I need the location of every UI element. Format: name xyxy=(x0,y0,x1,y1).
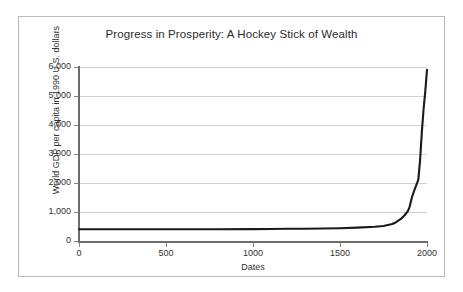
y-axis-tick-label: 4,000 xyxy=(19,119,71,129)
y-axis-tick-mark xyxy=(74,125,78,126)
x-axis-tick-mark xyxy=(79,243,80,247)
y-axis-tick-mark xyxy=(74,154,78,155)
chart-figure-frame: Progress in Prosperity: A Hockey Stick o… xyxy=(18,16,445,277)
y-axis-tick-mark xyxy=(74,212,78,213)
y-axis-tick-label: 1,000 xyxy=(19,206,71,216)
x-axis-tick-label: 1500 xyxy=(320,248,360,258)
y-axis-tick-mark xyxy=(74,96,78,97)
y-axis-tick-mark xyxy=(74,241,78,242)
series-line-chart xyxy=(19,17,446,278)
x-axis-tick-label: 0 xyxy=(59,248,99,258)
y-axis-tick-label: 5,000 xyxy=(19,90,71,100)
y-axis-tick-mark xyxy=(74,183,78,184)
x-axis-tick-mark xyxy=(340,243,341,247)
y-axis-tick-mark xyxy=(74,67,78,68)
x-axis-tick-mark xyxy=(166,243,167,247)
y-axis-tick-label: 6,000 xyxy=(19,61,71,71)
series-path xyxy=(79,70,427,229)
x-axis-tick-label: 1000 xyxy=(233,248,273,258)
y-axis-tick-label: 0 xyxy=(19,235,71,245)
x-axis-tick-mark xyxy=(253,243,254,247)
x-axis-tick-label: 500 xyxy=(146,248,186,258)
y-axis-tick-label: 2,000 xyxy=(19,177,71,187)
x-axis-tick-mark xyxy=(427,243,428,247)
y-axis-tick-label: 3,000 xyxy=(19,148,71,158)
x-axis-tick-label: 2000 xyxy=(407,248,447,258)
